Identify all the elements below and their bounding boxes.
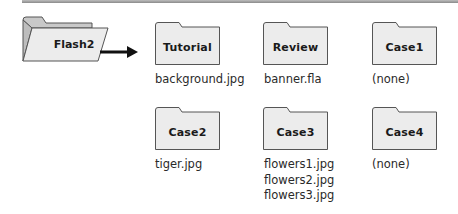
folder-label: Case1 [372, 41, 437, 54]
file-name: (none) [372, 157, 410, 173]
file-name: (none) [372, 72, 410, 88]
folder-case4: Case4 [372, 107, 437, 150]
folder-tutorial: Tutorial [155, 22, 220, 65]
file-list-case3: flowers1.jpg flowers2.jpg flowers3.jpg [264, 157, 334, 204]
folder-case1: Case1 [372, 22, 437, 65]
file-list-case4: (none) [372, 157, 410, 173]
file-name: flowers1.jpg [264, 157, 334, 173]
file-name: banner.fla [264, 72, 322, 88]
file-list-review: banner.fla [264, 72, 322, 88]
root-folder-label: Flash2 [44, 38, 104, 51]
folder-label: Case4 [372, 126, 437, 139]
folder-case3: Case3 [263, 107, 328, 150]
folder-case2: Case2 [155, 107, 220, 150]
file-list-case1: (none) [372, 72, 410, 88]
folder-label: Case2 [155, 126, 220, 139]
file-name: background.jpg [155, 72, 244, 88]
file-name: tiger.jpg [155, 157, 202, 173]
folder-label: Case3 [263, 126, 328, 139]
folder-review: Review [263, 22, 328, 65]
file-name: flowers2.jpg [264, 173, 334, 189]
file-name: flowers3.jpg [264, 188, 334, 204]
folder-label: Tutorial [155, 41, 220, 54]
arrow-icon [100, 43, 140, 62]
top-divider [22, 0, 458, 3]
file-list-tutorial: background.jpg [155, 72, 244, 88]
folder-label: Review [263, 41, 328, 54]
file-list-case2: tiger.jpg [155, 157, 202, 173]
root-folder-flash2: Flash2 [22, 14, 112, 64]
